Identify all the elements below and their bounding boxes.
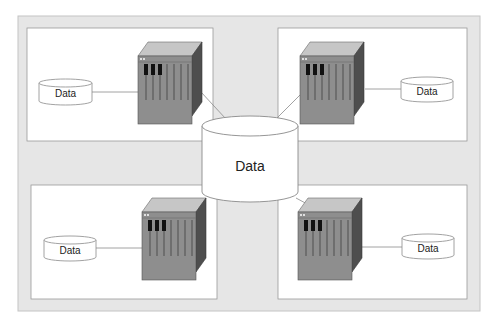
site-database-top-right: Data	[401, 77, 453, 102]
server-rack-icon	[298, 198, 362, 280]
site-database-top-left: Data	[39, 79, 92, 105]
database-label: Data	[55, 88, 77, 99]
site-database-bottom-right: Data	[402, 234, 454, 259]
server-rack-icon	[138, 42, 202, 124]
central-database-label: Data	[235, 158, 265, 174]
server-rack-icon	[142, 198, 206, 280]
database-label: Data	[416, 86, 438, 97]
database-label: Data	[417, 243, 439, 254]
distributed-database-diagram: Data Data Data Data Data	[0, 0, 499, 326]
server-rack-icon	[300, 42, 364, 124]
central-database: Data	[202, 116, 298, 202]
site-database-bottom-left: Data	[44, 236, 96, 261]
database-label: Data	[59, 245, 81, 256]
